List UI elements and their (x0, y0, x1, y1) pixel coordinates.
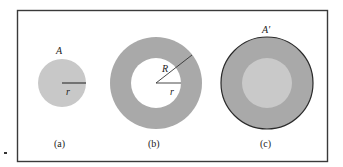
margin-mark (4, 152, 7, 154)
caption-b: (b) (148, 138, 160, 150)
circle-area-diagram: A r (a) R r (b) A′ (c) (0, 0, 343, 167)
outer-radius-label-b: R (161, 63, 168, 74)
area-label-a: A (55, 45, 63, 56)
inner-radius-label-b: r (170, 86, 174, 97)
area-label-c: A′ (261, 24, 271, 35)
radius-label-a: r (66, 86, 70, 97)
disk-inner-c (242, 58, 292, 108)
caption-c: (c) (260, 138, 271, 150)
caption-a: (a) (54, 138, 65, 150)
